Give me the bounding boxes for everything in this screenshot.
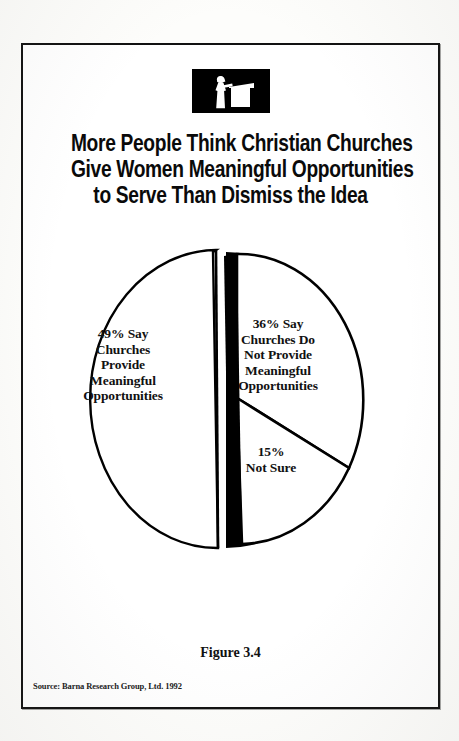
title-line-1: More People Think Christian Churches	[71, 130, 390, 156]
pie-label-36: 36% Say Churches Do Not Provide Meaningf…	[213, 316, 343, 394]
pie-label-36-line-4: Meaningful	[213, 363, 343, 379]
pie-label-15: 15% Not Sure	[219, 444, 323, 475]
pie-label-15-line-2: Not Sure	[219, 460, 323, 476]
source-note: Source: Barna Research Group, Ltd. 1992	[33, 681, 182, 691]
pie-label-49-line-2: Churches	[61, 342, 185, 358]
pie-label-49-line-5: Opportunities	[61, 388, 185, 404]
pie-label-36-line-3: Not Provide	[213, 347, 343, 363]
figure-number-caption: Figure 3.4	[23, 645, 438, 661]
badge-container	[23, 69, 438, 113]
pie-label-49-line-1: 49% Say	[61, 326, 185, 342]
figure-frame: More People Think Christian Churches Giv…	[21, 43, 440, 709]
pie-label-15-line-1: 15%	[219, 444, 323, 460]
pie-label-36-line-2: Churches Do	[213, 332, 343, 348]
title-line-3: to Serve Than Dismiss the Idea	[71, 182, 390, 208]
scanned-page: More People Think Christian Churches Giv…	[0, 0, 459, 741]
pie-chart: 49% Say Churches Provide Meaningful Oppo…	[23, 230, 438, 570]
title-line-2: Give Women Meaningful Opportunities	[71, 156, 390, 182]
figure-title: More People Think Christian Churches Giv…	[31, 130, 430, 208]
pie-label-49-line-4: Meaningful	[61, 373, 185, 389]
woman-at-pulpit-icon	[192, 69, 270, 113]
pie-label-36-line-5: Opportunities	[213, 378, 343, 394]
pie-label-36-line-1: 36% Say	[213, 316, 343, 332]
pie-label-49: 49% Say Churches Provide Meaningful Oppo…	[61, 326, 185, 404]
pie-label-49-line-3: Provide	[61, 357, 185, 373]
